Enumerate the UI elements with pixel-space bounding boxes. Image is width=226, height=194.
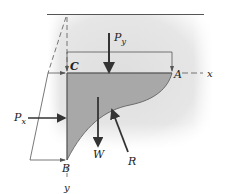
label-Px: Px	[13, 111, 26, 126]
label-B: B	[61, 162, 70, 175]
label-C: C	[70, 60, 79, 73]
label-x-axis: x	[207, 68, 213, 79]
label-W: W	[93, 148, 106, 161]
label-R: R	[127, 155, 136, 168]
label-A: A	[173, 68, 182, 81]
diagram-canvas: C A B x y Py Px W R	[0, 0, 226, 194]
label-y-axis: y	[63, 182, 70, 193]
